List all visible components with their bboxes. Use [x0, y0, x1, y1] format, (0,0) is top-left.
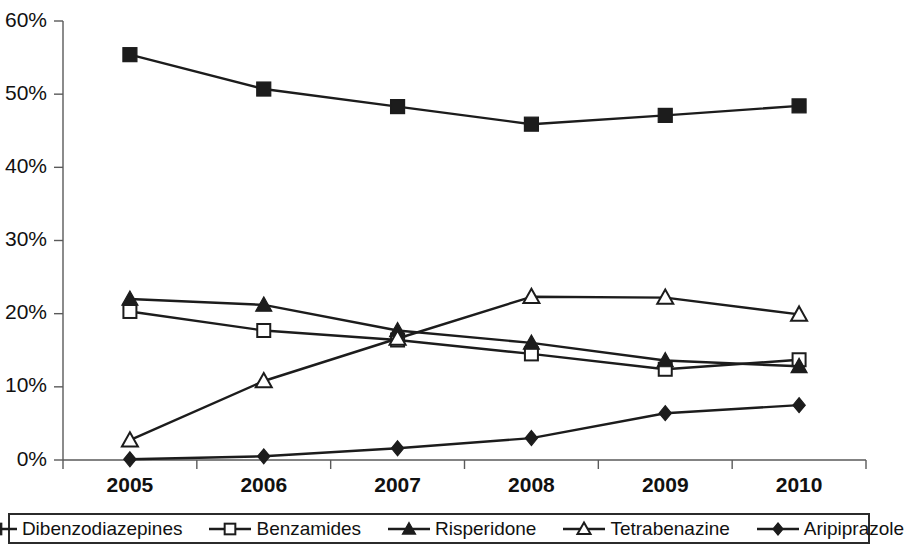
y-axis-tick-label: 30% [5, 227, 47, 250]
series-line [130, 312, 799, 370]
series-layer [122, 48, 807, 467]
data-point-marker [659, 406, 671, 421]
y-axis-tick-label: 40% [5, 154, 47, 177]
data-point-marker [391, 100, 405, 114]
x-axis-tick-label: 2007 [374, 473, 421, 496]
chart-legend: DibenzodiazepinesBenzamidesRisperidoneTe… [8, 513, 870, 544]
x-axis-tick-label: 2005 [107, 473, 154, 496]
y-axis: 0%10%20%30%40%50%60% [5, 8, 63, 470]
legend-item-label: Dibenzodiazepines [22, 519, 183, 538]
data-point-marker [124, 452, 136, 467]
data-point-marker [123, 305, 136, 318]
legend-item[interactable]: Benzamides [208, 519, 361, 538]
series-aripiprazole [124, 398, 805, 467]
legend-marker-open-triangle-icon [562, 520, 606, 538]
series-dibenzodiazepines [123, 48, 806, 132]
x-axis-tick-label: 2009 [642, 473, 689, 496]
data-point-marker [257, 82, 271, 96]
legend-marker-filled-diamond-icon [756, 520, 800, 538]
data-point-marker [525, 431, 537, 446]
series-benzamides [123, 305, 805, 376]
data-point-marker [258, 449, 270, 464]
legend-item-label: Tetrabenazine [610, 519, 729, 538]
legend-item[interactable]: Risperidone [387, 519, 536, 538]
x-axis: 200520062007200820092010 [63, 460, 866, 496]
y-axis-tick-label: 50% [5, 81, 47, 104]
legend-marker-filled-triangle-icon [387, 520, 431, 538]
data-point-marker [792, 99, 806, 113]
legend-item[interactable]: Tetrabenazine [562, 519, 729, 538]
series-line [130, 297, 799, 440]
legend-item[interactable]: Dibenzodiazepines [0, 519, 182, 538]
x-axis-tick-label: 2006 [240, 473, 287, 496]
x-axis-tick-label: 2010 [776, 473, 823, 496]
data-point-marker [391, 441, 403, 456]
legend-item-label: Risperidone [435, 519, 536, 538]
legend-item-label: Aripiprazole [804, 519, 904, 538]
series-line [130, 405, 799, 459]
series-line [130, 299, 799, 366]
legend-marker-filled-square-icon [0, 520, 18, 538]
data-point-marker [524, 117, 538, 131]
data-point-marker [122, 432, 138, 446]
y-axis-tick-label: 0% [17, 447, 47, 470]
legend-marker-open-square-icon [208, 520, 252, 538]
data-point-marker [793, 398, 805, 413]
x-axis-tick-label: 2008 [508, 473, 555, 496]
y-axis-tick-label: 10% [5, 373, 47, 396]
legend-item[interactable]: Aripiprazole [756, 519, 904, 538]
data-point-marker [123, 48, 137, 62]
data-point-marker [658, 108, 672, 122]
y-axis-tick-label: 20% [5, 300, 47, 323]
series-line [130, 55, 799, 125]
legend-item-label: Benzamides [256, 519, 361, 538]
y-axis-tick-label: 60% [5, 8, 47, 31]
data-point-marker [257, 324, 270, 337]
